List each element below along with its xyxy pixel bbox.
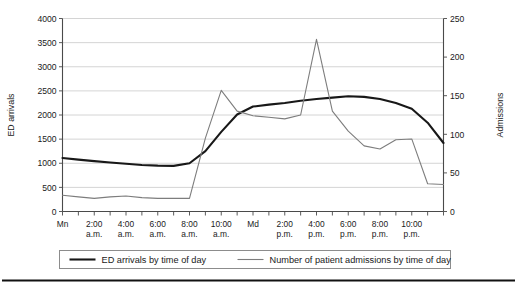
right-tick-label-200: 200: [450, 52, 465, 62]
x-tick-label-2-line1: 4:00: [118, 219, 135, 229]
x-tick-label-1-line1: 2:00: [86, 219, 103, 229]
left-axis-title: ED arrivals: [6, 93, 16, 137]
right-tick-label-150: 150: [450, 91, 465, 101]
right-axis-title: Admissions: [495, 92, 505, 138]
x-tick-label-4-line1: 8:00: [181, 219, 198, 229]
left-tick-label-2500: 2500: [37, 86, 56, 96]
x-tick-label-10-line1: 8:00: [372, 219, 389, 229]
x-tick-label-0-line1: Mn: [57, 219, 69, 229]
left-tick-label-3500: 3500: [37, 38, 56, 48]
ed-arrivals-admissions-line-chart: 0500100015002000250030003500400005010015…: [0, 0, 517, 291]
x-tick-label-8-line1: 4:00: [308, 219, 325, 229]
left-tick-label-4000: 4000: [37, 14, 56, 24]
x-tick-label-7-line2: p.m.: [277, 229, 293, 239]
x-tick-label-10-line2: p.m.: [372, 229, 388, 239]
x-tick-label-5-line1: 10:00: [211, 219, 232, 229]
x-tick-label-9-line1: 6:00: [340, 219, 357, 229]
left-tick-label-2000: 2000: [37, 110, 56, 120]
x-tick-label-5-line2: a.m.: [213, 229, 229, 239]
right-tick-label-100: 100: [450, 130, 465, 140]
series-line-admissions: [63, 39, 444, 198]
left-axis-tick-labels: 05001000150020002500300035004000: [37, 14, 62, 217]
x-tick-label-1-line2: a.m.: [86, 229, 102, 239]
x-tick-label-11-line2: p.m.: [404, 229, 420, 239]
x-tick-label-7-line1: 2:00: [277, 219, 294, 229]
x-tick-label-9-line2: p.m.: [340, 229, 356, 239]
x-tick-label-2-line2: a.m.: [118, 229, 134, 239]
x-axis-tick-labels: Mn2:00a.m.4:00a.m.6:00a.m.8:00a.m.10:00a…: [57, 219, 423, 239]
x-tick-label-3-line2: a.m.: [150, 229, 166, 239]
legend-label-1: Number of patient admissions by time of …: [270, 255, 452, 265]
left-tick-label-500: 500: [42, 183, 57, 193]
gridlines-group: [63, 19, 444, 212]
right-tick-label-250: 250: [450, 14, 465, 24]
right-axis-tick-labels: 050100150200250: [444, 14, 465, 217]
x-tick-label-3-line1: 6:00: [150, 219, 167, 229]
series-group: [63, 39, 444, 198]
x-tick-label-8-line2: p.m.: [308, 229, 324, 239]
chart-figure: 0500100015002000250030003500400005010015…: [0, 0, 517, 291]
legend-label-0: ED arrivals by time of day: [102, 255, 207, 265]
legend: ED arrivals by time of dayNumber of pati…: [60, 251, 452, 269]
x-tick-label-4-line2: a.m.: [181, 229, 197, 239]
series-line-ed-arrivals: [63, 96, 444, 166]
x-tick-label-11-line1: 10:00: [401, 219, 422, 229]
right-tick-label-50: 50: [450, 168, 460, 178]
left-tick-label-1000: 1000: [37, 158, 56, 168]
left-tick-label-0: 0: [52, 207, 57, 217]
left-tick-label-3000: 3000: [37, 62, 56, 72]
right-tick-label-0: 0: [450, 207, 455, 217]
x-tick-label-6-line1: Md: [247, 219, 259, 229]
x-axis-tick-marks: [63, 212, 444, 216]
left-tick-label-1500: 1500: [37, 134, 56, 144]
